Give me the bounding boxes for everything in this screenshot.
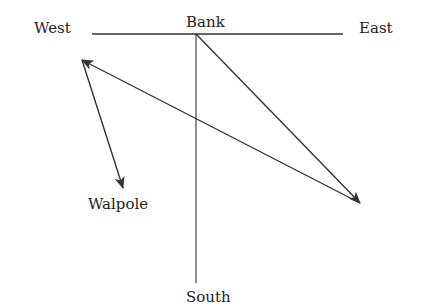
walpole-label: Walpole <box>88 197 148 212</box>
east-label: East <box>359 21 393 36</box>
bank-label: Bank <box>186 15 225 30</box>
west-label: West <box>34 21 71 36</box>
southeast-to-west-arrow <box>82 60 360 203</box>
west-to-walpole-arrow <box>82 60 123 188</box>
bank-to-southeast-arrow <box>196 34 360 203</box>
south-label: South <box>186 290 231 305</box>
diagram-canvas <box>0 0 427 307</box>
